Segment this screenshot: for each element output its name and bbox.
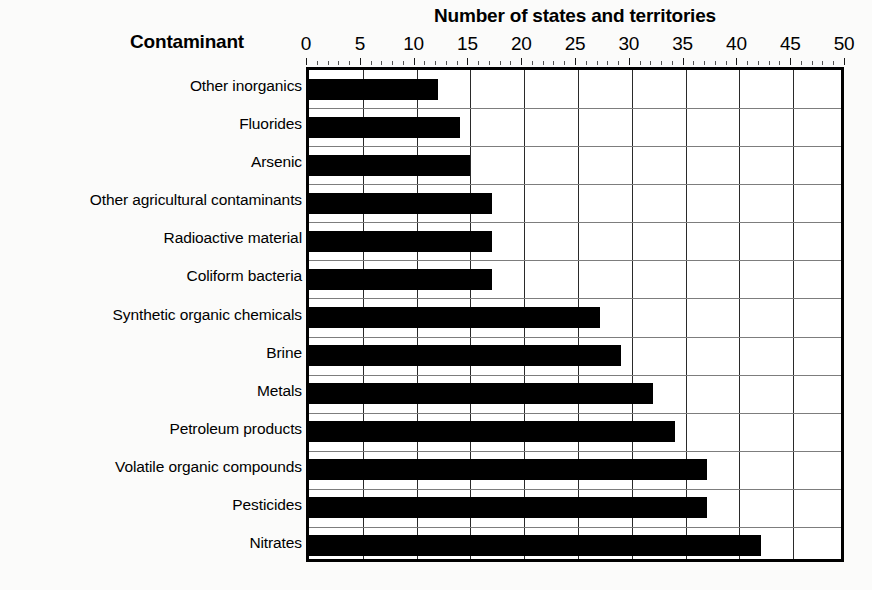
gridline-horizontal xyxy=(309,489,841,490)
x-axis-minor-tick xyxy=(543,61,544,65)
x-axis-tick-labels: 05101520253035404550 xyxy=(306,33,844,55)
x-axis-minor-tick xyxy=(704,61,705,65)
bar xyxy=(309,421,675,442)
bar-chart-figure: Number of states and territories Contami… xyxy=(0,0,872,590)
gridline-vertical xyxy=(632,70,633,559)
x-axis-minor-tick xyxy=(532,61,533,65)
x-axis-minor-tick xyxy=(338,61,339,65)
x-axis-major-tick xyxy=(306,58,307,65)
x-axis-minor-tick xyxy=(693,61,694,65)
gridline-horizontal xyxy=(309,527,841,528)
bar xyxy=(309,345,621,366)
x-axis-tick-label: 20 xyxy=(511,33,532,54)
bar xyxy=(309,497,707,518)
gridline-horizontal xyxy=(309,184,841,185)
category-axis-label: Radioactive material xyxy=(164,229,302,247)
x-axis-minor-tick xyxy=(758,61,759,65)
gridline-horizontal xyxy=(309,260,841,261)
x-axis-minor-tick xyxy=(747,61,748,65)
x-axis-minor-tick xyxy=(446,61,447,65)
bar xyxy=(309,269,492,290)
bar xyxy=(309,79,438,100)
category-axis-title: Contaminant xyxy=(130,31,244,52)
x-axis-minor-tick xyxy=(586,61,587,65)
x-axis-minor-tick xyxy=(597,61,598,65)
x-axis-major-tick xyxy=(360,58,361,65)
x-axis-tick-label: 0 xyxy=(301,33,311,54)
category-axis-label: Metals xyxy=(257,382,302,400)
category-axis-label: Synthetic organic chemicals xyxy=(113,306,302,324)
x-axis-minor-tick xyxy=(424,61,425,65)
gridline-horizontal xyxy=(309,108,841,109)
gridline-horizontal xyxy=(309,146,841,147)
x-axis-major-tick xyxy=(736,58,737,65)
x-axis-major-tick xyxy=(844,58,845,65)
x-axis-minor-tick xyxy=(640,61,641,65)
x-axis-minor-tick xyxy=(715,61,716,65)
gridline-horizontal xyxy=(309,451,841,452)
bar xyxy=(309,535,761,556)
x-axis-major-tick xyxy=(629,58,630,65)
gridline-horizontal xyxy=(309,222,841,223)
bar xyxy=(309,117,460,138)
x-axis-minor-tick xyxy=(349,61,350,65)
category-axis-label: Arsenic xyxy=(251,153,302,171)
x-axis-minor-tick xyxy=(726,61,727,65)
category-axis-label: Other agricultural contaminants xyxy=(90,191,302,209)
x-axis-minor-tick xyxy=(822,61,823,65)
x-axis-major-tick xyxy=(521,58,522,65)
gridline-horizontal xyxy=(309,298,841,299)
x-axis-tick-label: 45 xyxy=(780,33,801,54)
x-axis-tick-label: 40 xyxy=(726,33,747,54)
x-axis-minor-tick xyxy=(500,61,501,65)
category-axis-label: Volatile organic compounds xyxy=(115,458,302,476)
bar xyxy=(309,459,707,480)
gridline-vertical xyxy=(739,70,740,559)
x-axis-minor-tick xyxy=(328,61,329,65)
x-axis-minor-tick xyxy=(553,61,554,65)
x-axis-minor-tick xyxy=(661,61,662,65)
x-axis-major-tick xyxy=(683,58,684,65)
bar xyxy=(309,155,470,176)
x-axis-tick-label: 10 xyxy=(403,33,424,54)
gridline-horizontal xyxy=(309,413,841,414)
bar xyxy=(309,193,492,214)
x-axis-major-tick xyxy=(790,58,791,65)
x-axis-minor-tick xyxy=(435,61,436,65)
x-axis-minor-tick xyxy=(478,61,479,65)
x-axis-tick-label: 35 xyxy=(672,33,693,54)
category-axis-label: Petroleum products xyxy=(169,420,302,438)
x-axis-tick-label: 25 xyxy=(565,33,586,54)
x-axis-minor-tick xyxy=(618,61,619,65)
x-axis-tick-label: 30 xyxy=(619,33,640,54)
gridline-horizontal xyxy=(309,375,841,376)
x-axis-minor-tick xyxy=(769,61,770,65)
x-axis-minor-tick xyxy=(801,61,802,65)
gridline-horizontal xyxy=(309,337,841,338)
x-axis-minor-tick xyxy=(317,61,318,65)
gridline-vertical xyxy=(686,70,687,559)
x-axis-tick-label: 5 xyxy=(355,33,365,54)
x-axis-minor-tick xyxy=(510,61,511,65)
x-axis-major-tick xyxy=(467,58,468,65)
category-axis-label: Brine xyxy=(266,344,302,362)
x-axis-minor-tick xyxy=(672,61,673,65)
x-axis-minor-tick xyxy=(833,61,834,65)
x-axis-minor-tick xyxy=(650,61,651,65)
x-axis-major-tick xyxy=(575,58,576,65)
x-axis-tick-label: 50 xyxy=(834,33,855,54)
category-axis-label: Fluorides xyxy=(239,115,302,133)
x-axis-tick-label: 15 xyxy=(457,33,478,54)
category-axis-label: Coliform bacteria xyxy=(187,267,302,285)
x-axis-minor-tick xyxy=(489,61,490,65)
x-axis-minor-tick xyxy=(607,61,608,65)
plot-area xyxy=(306,67,844,562)
gridline-vertical xyxy=(793,70,794,559)
bar xyxy=(309,231,492,252)
x-axis-minor-tick xyxy=(381,61,382,65)
category-axis-label: Other inorganics xyxy=(190,77,302,95)
x-axis-minor-tick xyxy=(779,61,780,65)
x-axis-minor-tick xyxy=(457,61,458,65)
category-axis-label: Pesticides xyxy=(232,496,302,514)
x-axis-minor-tick xyxy=(403,61,404,65)
